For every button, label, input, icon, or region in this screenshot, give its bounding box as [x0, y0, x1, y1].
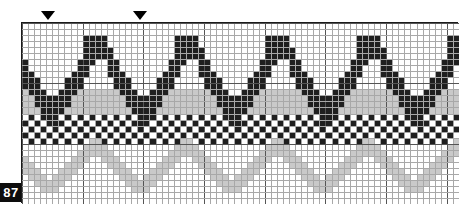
pattern-grid[interactable] — [21, 22, 458, 203]
pattern-chart-page: 87 — [0, 0, 471, 222]
repeat-marker-1-icon — [41, 11, 55, 20]
pattern-grid-canvas[interactable] — [22, 23, 459, 204]
repeat-marker-2-icon — [133, 11, 147, 20]
